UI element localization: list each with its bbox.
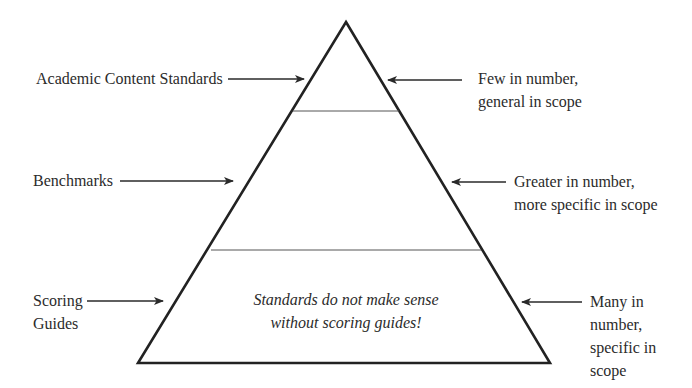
- label-line: more specific in scope: [514, 193, 658, 216]
- label-greater-in-number: Greater in number, more specific in scop…: [514, 170, 658, 216]
- scoring-guides-note: Standards do not make sense without scor…: [196, 288, 496, 334]
- note-line: Standards do not make sense: [196, 288, 496, 311]
- label-line: scope: [590, 359, 656, 382]
- label-line: Scoring: [33, 289, 83, 312]
- label-line: specific in: [590, 336, 656, 359]
- label-line: Greater in number,: [514, 170, 658, 193]
- label-few-in-number: Few in number, general in scope: [478, 67, 582, 113]
- note-line: without scoring guides!: [196, 311, 496, 334]
- label-academic-content-standards: Academic Content Standards: [36, 67, 223, 90]
- label-line: Guides: [33, 312, 83, 335]
- label-line: general in scope: [478, 90, 582, 113]
- label-benchmarks: Benchmarks: [33, 169, 113, 192]
- label-many-in-number: Many in number, specific in scope: [590, 290, 656, 382]
- label-line: Many in: [590, 290, 656, 313]
- label-line: number,: [590, 313, 656, 336]
- label-line: Benchmarks: [33, 169, 113, 192]
- label-scoring-guides: Scoring Guides: [33, 289, 83, 335]
- label-line: Academic Content Standards: [36, 67, 223, 90]
- label-line: Few in number,: [478, 67, 582, 90]
